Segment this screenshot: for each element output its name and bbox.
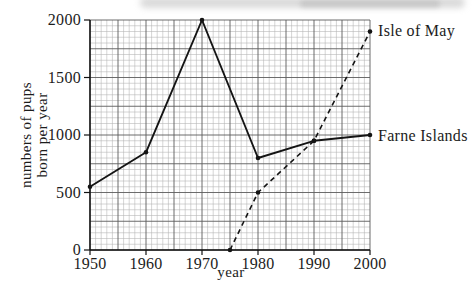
series-label-farne-islands: Farne Islands xyxy=(378,127,468,144)
y-axis-title-line2: born per year xyxy=(34,92,50,177)
data-point xyxy=(256,156,261,161)
data-point xyxy=(368,29,373,34)
x-axis-title: year xyxy=(217,264,244,280)
x-tick-label: 1970 xyxy=(185,255,218,272)
data-point xyxy=(256,190,261,195)
axis-ticks xyxy=(84,20,370,255)
y-tick-label: 1000 xyxy=(48,126,81,143)
series-label-isle-of-may: Isle of May xyxy=(378,22,455,40)
chart-figure: 1950196019701980199020000500100015002000… xyxy=(0,0,473,296)
y-tick-label: 0 xyxy=(73,241,81,258)
y-axis-title-line1: numbers of pups xyxy=(18,82,34,188)
y-tick-label: 1500 xyxy=(48,69,81,86)
y-tick-label: 500 xyxy=(56,184,81,201)
x-tick-label: 2000 xyxy=(353,255,386,272)
data-point xyxy=(312,139,317,144)
data-point xyxy=(144,150,149,155)
data-point xyxy=(368,133,373,138)
x-tick-label: 1990 xyxy=(297,255,330,272)
y-tick-label: 2000 xyxy=(48,11,81,28)
data-point xyxy=(200,18,205,23)
x-tick-label: 1980 xyxy=(241,255,274,272)
pups-line-chart: 1950196019701980199020000500100015002000… xyxy=(0,0,473,296)
data-point xyxy=(88,185,93,190)
x-tick-label: 1960 xyxy=(129,255,162,272)
data-point xyxy=(228,248,233,253)
